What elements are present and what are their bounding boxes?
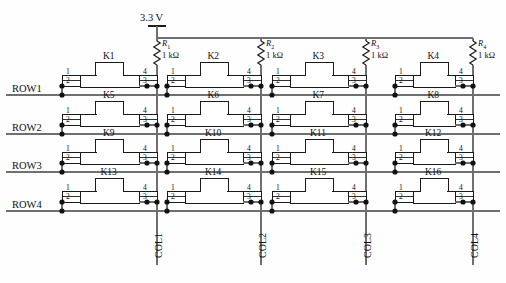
switch-designator-K1: K1 — [103, 51, 115, 61]
node-switch-left-K13 — [59, 199, 64, 204]
pin-4-label-K12: 4 — [459, 144, 463, 153]
switch-cap-K15 — [305, 178, 333, 191]
node-column-K8 — [470, 122, 475, 127]
pin-1-label-K2: 1 — [171, 67, 175, 76]
switch-designator-K4: K4 — [428, 51, 440, 61]
pin-1-label-K1: 1 — [66, 67, 70, 76]
node-switch-left-K14 — [164, 199, 169, 204]
pin-1-label-K7: 1 — [276, 106, 280, 115]
row-label-1: ROW1 — [12, 83, 42, 94]
node-switch-left-K7 — [269, 122, 274, 127]
node-row-K11 — [269, 169, 274, 174]
pin-1-label-K15: 1 — [276, 183, 280, 192]
resistor-zigzag-2 — [258, 41, 264, 65]
pin-3-label-K2: 3 — [247, 76, 251, 85]
switch-body-K8 — [413, 114, 455, 126]
node-row-K15 — [269, 208, 274, 213]
column-label-2: COL2 — [257, 233, 268, 258]
node-row-K14 — [164, 208, 169, 213]
pin-1-label-K12: 1 — [399, 144, 403, 153]
switch-cap-K12 — [420, 139, 448, 152]
node-switch-left-K10 — [164, 160, 169, 165]
pin-3-label-K11: 3 — [352, 153, 356, 162]
pin-3-label-K8: 3 — [459, 115, 463, 124]
switch-cap-K8 — [420, 101, 448, 114]
row-label-2: ROW2 — [12, 122, 42, 133]
row-label-3: ROW3 — [12, 160, 42, 171]
node-row-K6 — [164, 131, 169, 136]
pin-3-label-K7: 3 — [352, 115, 356, 124]
switch-body-K3 — [290, 75, 348, 87]
pin-2-label-K4: 2 — [399, 76, 403, 85]
switch-body-K2 — [185, 75, 243, 87]
pin-1-label-K6: 1 — [171, 106, 175, 115]
switch-cap-K9 — [96, 139, 124, 152]
pin-3-label-K5: 3 — [143, 115, 147, 124]
node-row-K16 — [392, 208, 397, 213]
node-row-K2 — [164, 92, 169, 97]
node-column-K15 — [363, 199, 368, 204]
switch-designator-K16: K16 — [425, 167, 441, 177]
pin-1-label-K11: 1 — [276, 144, 280, 153]
pin-3-label-K15: 3 — [352, 192, 356, 201]
switch-cap-K7 — [305, 101, 333, 114]
node-row-K5 — [59, 131, 64, 136]
pin-1-label-K14: 1 — [171, 183, 175, 192]
switch-cap-K5 — [96, 101, 124, 114]
switch-designator-K12: K12 — [425, 128, 441, 138]
node-switch-left-K16 — [392, 199, 397, 204]
node-row-K7 — [269, 131, 274, 136]
column-label-1: COL1 — [153, 233, 164, 258]
pin-4-label-K4: 4 — [459, 67, 463, 76]
node-column-K10 — [258, 160, 263, 165]
switch-cap-K16 — [420, 178, 448, 191]
pin-2-label-K6: 2 — [171, 115, 175, 124]
switch-body-K11 — [290, 152, 348, 164]
pin-3-label-K12: 3 — [459, 153, 463, 162]
node-column-K13 — [154, 199, 159, 204]
node-switch-left-K15 — [269, 199, 274, 204]
switch-cap-K2 — [200, 62, 228, 75]
node-switch-left-K8 — [392, 122, 397, 127]
node-switch-left-K11 — [269, 160, 274, 165]
node-column-K6 — [258, 122, 263, 127]
pin-1-label-K16: 1 — [399, 183, 403, 192]
switch-designator-K11: K11 — [310, 128, 326, 138]
pin-1-label-K3: 1 — [276, 67, 280, 76]
node-row-K10 — [164, 169, 169, 174]
node-column-K7 — [363, 122, 368, 127]
node-row-K1 — [59, 92, 64, 97]
switch-cap-K11 — [305, 139, 333, 152]
pin-3-label-K16: 3 — [459, 192, 463, 201]
node-switch-left-K12 — [392, 160, 397, 165]
switch-designator-K2: K2 — [208, 51, 220, 61]
resistor-zigzag-3 — [363, 41, 369, 65]
pin-4-label-K3: 4 — [352, 67, 356, 76]
switch-cap-K10 — [200, 139, 228, 152]
node-switch-left-K6 — [164, 122, 169, 127]
node-row-K12 — [392, 169, 397, 174]
pin-4-label-K10: 4 — [247, 144, 251, 153]
node-column-K1 — [154, 83, 159, 88]
schematic-artwork — [0, 0, 506, 283]
switch-body-K6 — [185, 114, 243, 126]
pin-2-label-K5: 2 — [66, 115, 70, 124]
pin-2-label-K15: 2 — [276, 192, 280, 201]
switch-body-K15 — [290, 191, 348, 203]
resistor-label-2: R21 kΩ — [266, 39, 283, 60]
node-row-K4 — [392, 92, 397, 97]
pin-2-label-K7: 2 — [276, 115, 280, 124]
switch-cap-K4 — [420, 62, 448, 75]
column-label-3: COL3 — [362, 233, 373, 258]
switch-designator-K9: K9 — [103, 128, 115, 138]
node-row-K9 — [59, 169, 64, 174]
switch-cap-K13 — [96, 178, 124, 191]
node-column-K12 — [470, 160, 475, 165]
pin-3-label-K4: 3 — [459, 76, 463, 85]
switch-cap-K3 — [305, 62, 333, 75]
node-row-K13 — [59, 208, 64, 213]
pin-3-label-K9: 3 — [143, 153, 147, 162]
pin-4-label-K13: 4 — [143, 183, 147, 192]
circuit-diagram-canvas: 3.3 VR11 kΩR21 kΩR31 kΩR41 kΩROW1ROW2ROW… — [0, 0, 506, 283]
pin-1-label-K13: 1 — [66, 183, 70, 192]
